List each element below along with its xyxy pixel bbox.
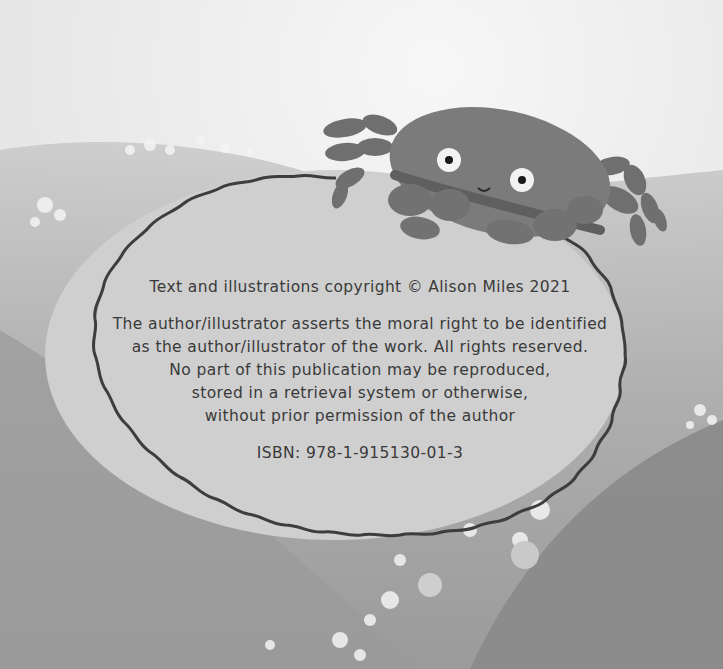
isbn-number: ISBN: 978-1-915130-01-3 bbox=[80, 442, 640, 465]
rights-line-4: stored in a retrieval system or otherwis… bbox=[80, 382, 640, 405]
rights-line-1: The author/illustrator asserts the moral… bbox=[80, 313, 640, 336]
copyright-page: Text and illustrations copyright © Aliso… bbox=[0, 0, 723, 669]
rights-line-5: without prior permission of the author bbox=[80, 405, 640, 428]
copyright-text-block: Text and illustrations copyright © Aliso… bbox=[80, 276, 640, 465]
rights-line-2: as the author/illustrator of the work. A… bbox=[80, 336, 640, 359]
rights-line-3: No part of this publication may be repro… bbox=[80, 359, 640, 382]
copyright-line: Text and illustrations copyright © Aliso… bbox=[80, 276, 640, 299]
